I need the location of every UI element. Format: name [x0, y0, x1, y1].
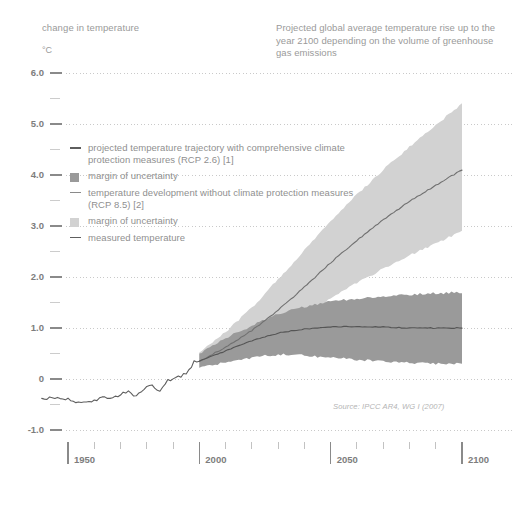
legend-item: measured temperature: [70, 232, 370, 246]
legend-line-glyph: [70, 192, 81, 194]
y-axis-tick-label: 0: [10, 373, 44, 384]
legend-item: projected temperature trajectory with co…: [70, 142, 370, 167]
legend-line-glyph: [70, 237, 81, 239]
legend-line-icon: [70, 147, 81, 149]
x-axis-tick-label: 2100: [468, 454, 489, 465]
legend-item-label: margin of uncertainty: [88, 170, 370, 182]
legend-swatch-glyph: [70, 173, 79, 182]
y-axis-tick-label: 2.0: [10, 271, 44, 282]
climate-projection-chart: change in temperature °C Projected globa…: [0, 0, 516, 505]
y-axis-tick-label: 1.0: [10, 322, 44, 333]
legend-line-icon: [70, 192, 81, 194]
y-axis-tick-label: 4.0: [10, 169, 44, 180]
x-axis-tick-label: 2050: [337, 454, 358, 465]
legend-item: temperature development without climate …: [70, 187, 370, 212]
legend-item-label: projected temperature trajectory with co…: [88, 142, 370, 167]
chart-legend: projected temperature trajectory with co…: [70, 142, 370, 249]
legend-item-label: measured temperature: [88, 232, 370, 244]
legend-line-icon: [70, 237, 81, 239]
plot-area: [0, 0, 516, 505]
legend-item-label: margin of uncertainty: [88, 215, 370, 227]
legend-swatch-icon: [70, 175, 79, 182]
series-line-measured: [42, 361, 200, 403]
y-axis-tick-label: 5.0: [10, 118, 44, 129]
y-axis-tick-label: 6.0: [10, 67, 44, 78]
legend-item-label: temperature development without climate …: [88, 187, 370, 212]
legend-item: margin of uncertainty: [70, 215, 370, 229]
y-axis-tick-label: 3.0: [10, 220, 44, 231]
legend-swatch-glyph: [70, 218, 79, 227]
legend-line-glyph: [70, 147, 81, 149]
source-attribution: Source: IPCC AR4, WG I (2007): [333, 402, 445, 411]
x-axis-tick-label: 1950: [74, 454, 95, 465]
x-axis-tick-label: 2000: [205, 454, 226, 465]
legend-item: margin of uncertainty: [70, 170, 370, 184]
y-axis-tick-label: -1.0: [10, 424, 44, 435]
legend-swatch-icon: [70, 220, 79, 227]
